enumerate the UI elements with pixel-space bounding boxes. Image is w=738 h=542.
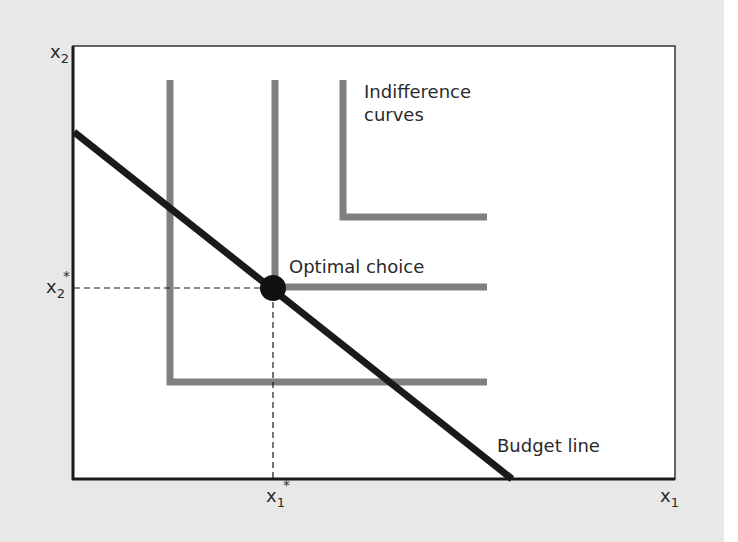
budget-diagram: x2 x1 x1* x2* Indifference curves Optima… [0,0,738,542]
x-axis-label: x1 [660,485,679,510]
x1-star-label: x1* [266,477,290,510]
y-axis-label: x2 [50,41,69,66]
optimal-choice-label: Optimal choice [289,256,424,277]
x2-star-label: x2* [46,268,70,301]
optimal-choice-point [260,275,286,301]
indifference-curves-label-line1: Indifference [364,81,471,102]
indifference-curves-label-line2: curves [364,104,424,125]
budget-line-label: Budget line [497,435,600,456]
